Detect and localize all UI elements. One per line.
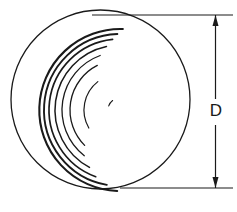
- technical-drawing-canvas: D: [0, 0, 237, 212]
- arrowhead-top-icon: [213, 15, 219, 26]
- surface-arc-7: [39, 29, 123, 191]
- surface-arc-0: [109, 101, 113, 106]
- sphere-diameter-drawing: D: [0, 0, 237, 212]
- surface-machining-arcs: [39, 29, 123, 191]
- dimension-label-D: D: [210, 101, 222, 120]
- surface-arc-1: [84, 82, 98, 128]
- surface-arc-2: [70, 65, 97, 145]
- arrowhead-bottom-icon: [213, 177, 219, 188]
